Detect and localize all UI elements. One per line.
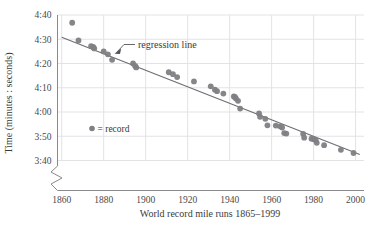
data-point: [257, 114, 263, 120]
legend-record-label: = record: [98, 124, 130, 134]
data-point: [235, 98, 241, 104]
mile-record-scatter-chart: 3:403:504:004:104:204:304:40 18601880190…: [0, 0, 373, 230]
data-point: [237, 106, 243, 112]
data-point: [262, 116, 268, 122]
data-point: [301, 135, 307, 141]
x-tick-label: 1860: [52, 195, 71, 205]
y-tick-label: 4:00: [35, 107, 52, 117]
regression-annotation: regression line: [115, 39, 198, 54]
x-axis-title: World record mile runs 1865–1999: [140, 208, 280, 219]
x-tick-label: 1900: [136, 195, 155, 205]
regression-line-label: regression line: [138, 39, 197, 50]
y-tick-label: 4:10: [35, 83, 52, 93]
data-point: [105, 51, 111, 57]
data-point: [220, 91, 226, 97]
axis-spines: [51, 15, 364, 191]
data-point: [321, 142, 327, 148]
x-tick-label: 1880: [94, 195, 113, 205]
data-point: [174, 74, 180, 80]
data-point: [279, 125, 285, 131]
chart-container: 3:403:504:004:104:204:304:40 18601880190…: [0, 0, 373, 230]
x-tick-label: 1960: [262, 195, 281, 205]
y-tick-label: 3:40: [35, 156, 52, 166]
y-axis-title: Time (minutes : seconds): [3, 52, 15, 153]
data-point: [214, 88, 220, 94]
y-tick-label: 4:40: [35, 10, 52, 20]
x-tick-label: 2000: [346, 195, 365, 205]
y-tick-label: 4:20: [35, 59, 52, 69]
legend-record-marker-icon: [89, 126, 95, 132]
data-point: [133, 64, 139, 70]
data-point: [265, 122, 271, 128]
y-tick-label: 3:50: [35, 132, 52, 142]
data-point: [76, 38, 82, 44]
data-point: [69, 20, 75, 26]
chart-legend: = record: [89, 124, 130, 134]
x-tick-label: 1940: [220, 195, 239, 205]
data-point: [283, 131, 289, 137]
data-point: [314, 140, 320, 146]
x-tick-label: 1980: [304, 195, 323, 205]
x-tick-label: 1920: [178, 195, 197, 205]
data-point: [109, 57, 115, 63]
data-point: [338, 147, 344, 153]
y-tick-label: 4:30: [35, 35, 52, 45]
axis-break-zigzag: [51, 166, 62, 191]
annotation-arrowhead: [115, 49, 122, 54]
x-axis-tick-labels: 18601880190019201940196019802000: [52, 195, 365, 205]
y-axis-tick-labels: 3:403:504:004:104:204:304:40: [35, 10, 52, 166]
data-point: [351, 150, 357, 156]
data-point: [91, 46, 97, 52]
data-point: [191, 79, 197, 85]
